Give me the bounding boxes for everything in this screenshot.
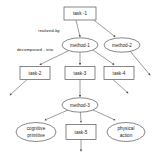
node-label-line2: action [120,133,133,138]
node-label-line1: cognitive [27,126,46,131]
node-task-1[interactable]: task -1 [64,7,96,20]
edge-label-decomposed-into: decomposed - into [17,47,54,52]
edge-method3-physical [93,110,115,120]
node-label-line1: physical [118,126,135,131]
node-method-2[interactable]: method-2 [104,38,140,52]
edge-task1-method1 [76,20,80,36]
node-method-3[interactable]: method-3 [62,98,98,112]
node-label: task-2 [29,71,42,76]
node-label: task-5 [75,130,88,135]
node-task-2[interactable]: task-2 [20,67,50,80]
node-label: method-1 [70,43,90,48]
node-label: task-3 [74,71,87,76]
node-method-1[interactable]: method-1 [62,38,98,52]
htn-diagram: task -1 method-1 method-2 task-2 task-3 … [0,0,161,155]
node-label: task-4 [113,71,126,76]
node-label: task -1 [73,11,88,16]
node-task-4[interactable]: task-4 [104,67,134,80]
edge-task4-dangling [113,80,128,93]
node-physical-action[interactable]: physical action [107,123,145,142]
diagram-canvas: task -1 method-1 method-2 task-2 task-3 … [0,0,161,155]
node-task-3[interactable]: task-3 [65,67,95,80]
edge-method1-task2 [40,51,68,65]
edge-method3-task5 [81,112,82,122]
edge-task1-method2 [94,20,115,36]
edge-method1-task4 [93,50,114,65]
node-label-line2: primitive [27,133,45,138]
edge-label-realized-by: realized-by [38,28,60,33]
node-cognitive-primitive[interactable]: cognitive primitive [16,123,56,142]
edge-task2-dangling [10,80,27,95]
node-label: method-2 [112,43,132,48]
edge-method3-cognitive [45,110,68,120]
node-label: method-3 [70,103,90,108]
node-task-5[interactable]: task-5 [66,125,96,140]
